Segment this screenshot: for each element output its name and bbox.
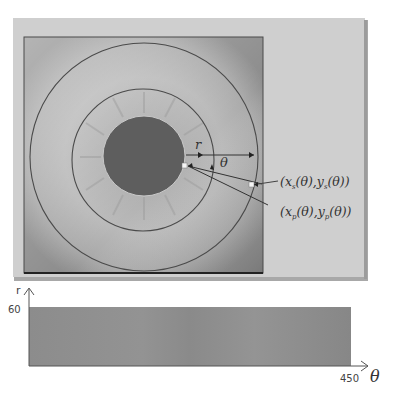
pupil	[103, 116, 185, 196]
panel-right-edge	[364, 20, 367, 279]
r-axis-max-tick: 60	[8, 304, 21, 315]
normalized-iris-strip	[29, 307, 351, 366]
theta-axis-max-tick: 450	[340, 373, 359, 384]
radius-label: r	[195, 137, 202, 152]
iris-diagram: r θ (xs(θ),ys(θ)) (xp(θ),yp(θ)) r 60	[0, 0, 395, 396]
bottom-panel: r 60 450 θ	[8, 284, 380, 386]
top-panel: r θ (xs(θ),ys(θ)) (xp(θ),yp(θ))	[13, 18, 368, 281]
iris-point-label: (xs(θ),ys(θ))	[280, 174, 350, 191]
pupil-boundary-point	[182, 163, 187, 168]
pupil-point-label: (xp(θ),yp(θ))	[280, 204, 352, 221]
theta-axis-label: θ	[370, 367, 380, 386]
iris-boundary-point	[249, 182, 254, 187]
theta-label: θ	[220, 155, 228, 170]
r-axis-label: r	[16, 284, 21, 297]
